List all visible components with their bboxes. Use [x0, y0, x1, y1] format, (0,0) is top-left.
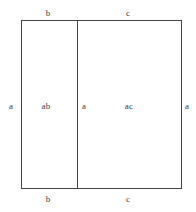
rectangle-bottom-edge [21, 188, 181, 189]
bottom-right-dimension-label: c [126, 194, 130, 204]
top-right-dimension-label: c [126, 8, 130, 18]
bottom-left-dimension-label: b [46, 194, 51, 204]
left-side-dimension-label: a [9, 101, 13, 111]
left-region-area-label: ab [42, 101, 51, 111]
top-left-dimension-label: b [46, 8, 51, 18]
area-model-diagram: b c a a ab a ac b c [0, 0, 196, 212]
vertical-divider-line [77, 20, 78, 189]
rectangle-left-edge [21, 20, 22, 189]
right-side-dimension-label: a [185, 101, 189, 111]
rectangle-top-edge [21, 20, 181, 21]
right-region-area-label: ac [125, 101, 133, 111]
rectangle-right-edge [181, 20, 182, 189]
divider-dimension-label: a [82, 101, 86, 111]
